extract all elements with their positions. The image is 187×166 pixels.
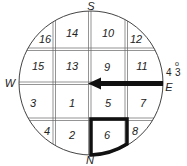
cell-label: 6: [104, 129, 111, 141]
cell-label: 11: [136, 60, 147, 72]
cell-label: 10: [102, 27, 115, 39]
annotation-superscript: o: [175, 60, 179, 67]
cell-label: 16: [39, 33, 52, 45]
cell-label: 4: [44, 125, 50, 137]
cell-label: 14: [66, 27, 78, 39]
cell-label: 15: [32, 60, 45, 72]
compass-diagram: S N W E 4 o 3 16 14 10 12 15 13 9 11 3 1…: [0, 0, 187, 166]
direction-label-top: S: [87, 0, 95, 12]
direction-label-bottom: N: [86, 154, 94, 166]
annotation-subscript: 3: [175, 67, 181, 78]
cell-label: 12: [130, 33, 142, 45]
direction-label-left: W: [5, 77, 17, 89]
cell-label: 2: [68, 129, 75, 141]
direction-label-right: E: [165, 81, 173, 93]
arrow-icon: [88, 78, 163, 90]
cell-label: 5: [105, 97, 112, 109]
cell-label: 9: [104, 61, 110, 73]
cell-label: 3: [30, 97, 37, 109]
cell-label: 8: [132, 125, 139, 137]
cell-label: 1: [69, 97, 75, 109]
cell-label: 7: [140, 97, 147, 109]
cell-label: 13: [66, 60, 79, 72]
annotation-main: 4: [166, 67, 172, 78]
annotation: 4 o 3: [166, 60, 181, 78]
